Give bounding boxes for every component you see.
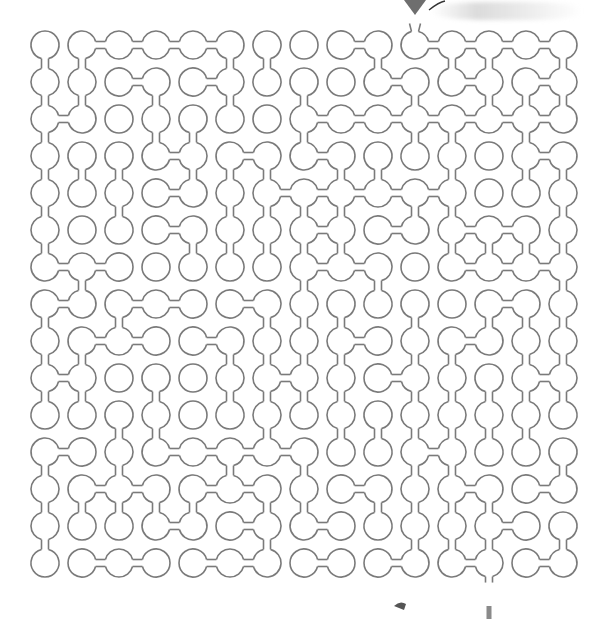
maze-cell — [216, 401, 244, 429]
maze-cell — [179, 105, 207, 133]
maze-cell — [512, 438, 540, 466]
maze-cell — [549, 475, 577, 503]
maze-board[interactable] — [0, 0, 602, 619]
entry-opening — [410, 23, 412, 31]
maze-cell — [290, 179, 317, 207]
maze-cell — [253, 475, 281, 503]
maze-cell — [31, 142, 59, 169]
ink-smudge-mark — [394, 602, 406, 610]
maze-cell — [364, 216, 392, 244]
maze-cell — [327, 475, 355, 503]
maze-cell — [253, 438, 280, 466]
maze-cell — [216, 253, 244, 281]
maze-cell — [105, 438, 133, 465]
maze-cell — [401, 512, 429, 539]
maze-cell — [327, 68, 355, 96]
maze-cell — [475, 68, 503, 95]
maze-cell — [105, 512, 133, 540]
maze-cell — [68, 549, 96, 577]
maze-cell — [290, 31, 318, 59]
maze-cell — [512, 142, 540, 169]
maze-cell — [364, 364, 392, 392]
maze-cell — [475, 142, 503, 170]
maze-cell — [216, 142, 244, 170]
maze-cell — [549, 290, 577, 317]
maze-cell — [31, 179, 59, 206]
maze-cell — [438, 31, 465, 59]
maze-cell — [142, 327, 170, 355]
maze-cell — [549, 31, 577, 59]
maze-cell — [401, 438, 429, 465]
maze-cell — [179, 179, 207, 207]
maze-cell — [327, 216, 355, 243]
maze-cell — [475, 475, 503, 503]
maze-cell — [549, 401, 577, 429]
maze-cell — [438, 105, 465, 133]
maze-cell — [142, 549, 170, 577]
maze-cell — [512, 216, 540, 244]
maze-cell — [253, 142, 281, 170]
maze-cell — [290, 290, 318, 317]
maze-cell — [216, 31, 244, 59]
maze-cell — [105, 401, 133, 429]
maze-cell — [327, 290, 355, 318]
maze-cell — [475, 327, 503, 355]
maze-cell — [512, 68, 540, 96]
maze-cell — [290, 512, 318, 540]
maze-cell — [438, 438, 466, 465]
maze-cell — [216, 179, 244, 206]
maze-cell — [216, 105, 244, 133]
maze-cell — [105, 68, 133, 96]
maze-cell — [438, 68, 466, 96]
maze-cell — [475, 438, 503, 466]
maze-cell — [216, 290, 244, 318]
maze-cell — [179, 512, 207, 540]
maze-cell — [105, 216, 133, 244]
maze-cell — [68, 438, 96, 466]
pen-stroke-mark — [429, 1, 445, 10]
maze-cell — [364, 438, 392, 466]
maze-cell — [253, 105, 281, 133]
maze-cell — [31, 31, 59, 59]
maze-cell — [475, 253, 502, 281]
maze-cell — [512, 253, 539, 281]
maze-cell — [253, 401, 281, 428]
maze-cell — [438, 512, 466, 539]
maze-cell — [327, 438, 355, 466]
maze-cell — [364, 68, 392, 96]
maze-cell — [216, 438, 243, 466]
maze-cell — [179, 549, 207, 577]
maze-cell — [68, 179, 96, 207]
maze-cell — [290, 105, 318, 132]
maze-cell — [68, 142, 96, 170]
maze-cell — [512, 290, 540, 318]
maze-cell — [475, 364, 503, 392]
maze-cell — [179, 68, 207, 96]
maze-cell — [364, 179, 391, 207]
maze-cell — [31, 290, 59, 318]
maze-cell — [327, 512, 355, 540]
maze-cell — [142, 475, 170, 503]
maze-cell — [401, 475, 429, 502]
maze-cell — [253, 179, 281, 206]
maze-cell — [401, 549, 429, 577]
maze-cell — [31, 364, 59, 391]
maze-cell — [68, 401, 96, 429]
maze-cell — [31, 105, 59, 132]
maze-cell — [549, 216, 577, 243]
maze-cell — [290, 438, 318, 466]
maze-cell — [438, 401, 466, 428]
maze-cell — [105, 105, 133, 133]
maze-cell — [142, 253, 170, 281]
maze-cell — [68, 68, 96, 95]
maze-cell — [512, 475, 540, 503]
maze-cell — [327, 105, 354, 133]
maze-cell — [438, 142, 466, 169]
maze-cell — [364, 475, 392, 503]
maze-cell — [142, 179, 170, 207]
maze-cell — [401, 31, 429, 59]
maze-cell — [327, 142, 355, 170]
maze-cell — [438, 290, 466, 318]
maze-cell — [512, 327, 540, 354]
maze-cell — [549, 364, 577, 391]
